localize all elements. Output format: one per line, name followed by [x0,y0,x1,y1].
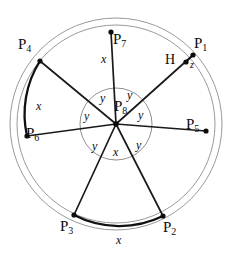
vertex-p4 [37,58,42,63]
point-label-h: H [165,53,175,67]
point-label-p6: P6 [26,126,39,141]
point-label-p8: P8 [114,99,127,114]
length-label-arc-p3-p2: x [116,234,121,246]
angle-label-p5-p2: y [136,139,141,151]
vertex-p8-center [113,121,119,127]
length-label-arc-p4-p6: x [36,100,41,112]
vertex-p3 [71,212,76,217]
vertex-h [183,59,188,64]
vertex-p5 [203,128,208,133]
point-label-p4: P4 [18,37,31,52]
vertex-p1 [190,52,195,57]
radius-p8-p3 [74,124,116,215]
point-label-p3: P3 [60,219,73,234]
point-label-p5: P5 [186,117,199,132]
angle-label-p1-p5: y [138,109,143,121]
length-label-p7-radius: x [101,53,106,65]
angle-label-p3-p6: y [92,140,97,152]
angle-label-p2-p3: x [113,146,118,158]
length-label-z: z [190,60,194,70]
angle-label-p7-p1: y [127,89,132,101]
point-label-p7: P7 [113,32,126,47]
point-label-p2: P2 [163,220,176,235]
geometry-diagram: P1 P2 P3 P4 P5 P6 P7 P8 H y y y x y y y … [0,0,229,255]
vertex-p2 [160,213,165,218]
point-label-p1: P1 [194,36,207,51]
angle-label-p4-p7: y [100,92,105,104]
radius-p8-p6 [27,124,116,136]
angle-label-p6-p4: y [84,110,89,122]
